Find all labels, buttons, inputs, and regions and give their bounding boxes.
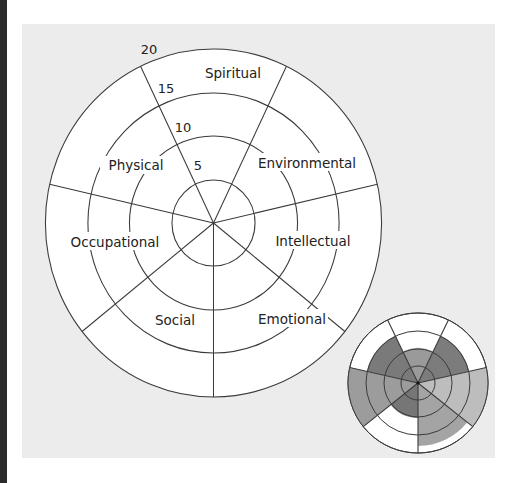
wellness-wheel-figure: Spiritual Environmental Intellectual Emo… [0,0,517,483]
dimension-label-emotional: Emotional [258,311,326,327]
dimension-label-spiritual: Spiritual [205,65,261,81]
dimension-label-physical: Physical [109,157,164,173]
example-shaded-wheel [348,313,488,453]
dimension-label-environmental: Environmental [258,155,356,171]
scale-label-10: 10 [175,120,192,135]
dimension-label-social: Social [155,312,195,328]
scale-label-20: 20 [141,42,158,57]
dimension-label-intellectual: Intellectual [275,233,350,249]
example-center-dot [416,381,419,384]
blank-wellness-wheel [45,49,381,397]
scale-label-15: 15 [158,81,175,96]
dimension-label-occupational: Occupational [71,234,160,250]
scale-label-5: 5 [194,158,202,173]
